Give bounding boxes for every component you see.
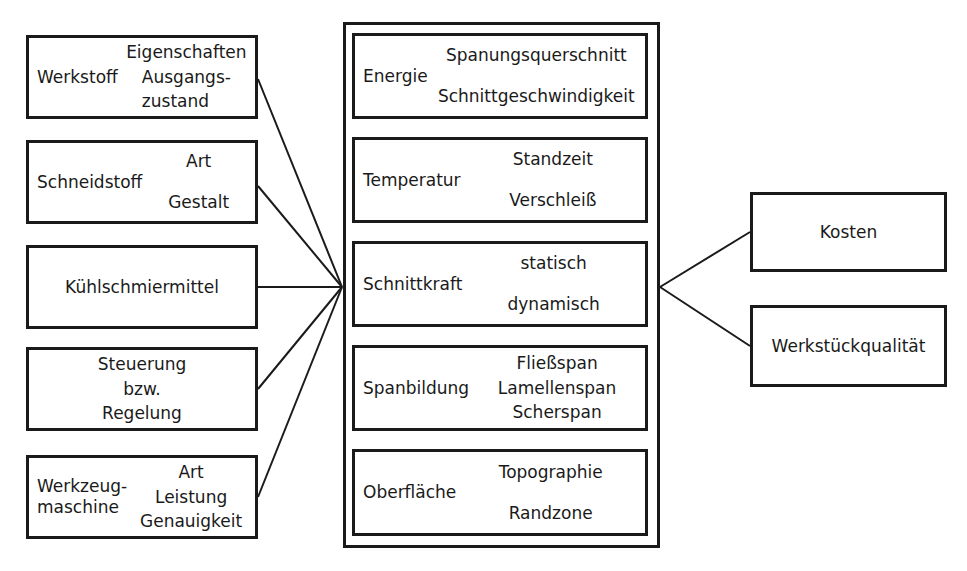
input-box-werkzeugmaschine[interactable]: Werkzeug- maschine Art Leistung Genauigk… bbox=[26, 455, 258, 539]
process-label-oberflaeche: Oberfläche bbox=[363, 482, 456, 503]
process-box-energie[interactable]: Energie Spanungsquerschnitt Schnittgesch… bbox=[352, 33, 648, 119]
input-sub-art2: Art bbox=[178, 460, 203, 485]
process-sublist-energie: Spanungsquerschnitt Schnittgeschwindigke… bbox=[428, 43, 645, 108]
process-sublist-spanbildung: Fließspan Lamellenspan Scherspan bbox=[469, 351, 645, 425]
input-box-schneidstoff[interactable]: Schneidstoff Art Gestalt bbox=[26, 140, 258, 224]
process-box-schnittkraft[interactable]: Schnittkraft statisch dynamisch bbox=[352, 241, 648, 327]
process-sublist-temperatur: Standzeit Verschleiß bbox=[461, 147, 645, 212]
process-sub-scherspan: Scherspan bbox=[512, 400, 601, 425]
process-sub-standzeit: Standzeit bbox=[513, 147, 593, 172]
output-label-kosten: Kosten bbox=[820, 222, 877, 243]
input-sublist-werkzeugmaschine: Art Leistung Genauigkeit bbox=[127, 460, 255, 534]
process-sublist-oberflaeche: Topographie Randzone bbox=[456, 460, 645, 525]
process-box-temperatur[interactable]: Temperatur Standzeit Verschleiß bbox=[352, 137, 648, 223]
process-label-energie: Energie bbox=[363, 66, 428, 87]
input-sublist-steuerung: Steuerung bzw. Regelung bbox=[98, 352, 186, 426]
input-label-werkzeugmaschine: Werkzeug- maschine bbox=[37, 476, 127, 517]
process-sub-lamellenspan: Lamellenspan bbox=[498, 376, 616, 401]
input-box-kuehlschmiermittel[interactable]: Kühlschmiermittel bbox=[26, 245, 258, 329]
input-sub-regelung: Regelung bbox=[102, 401, 182, 426]
connector-steuerung bbox=[258, 287, 342, 389]
input-label-werkstoff: Werkstoff bbox=[37, 67, 118, 88]
process-box-oberflaeche[interactable]: Oberfläche Topographie Randzone bbox=[352, 449, 648, 536]
connector-kosten bbox=[660, 232, 750, 287]
input-sublist-werkstoff: Eigenschaften Ausgangs- zustand bbox=[118, 40, 255, 114]
input-sub-genauigkeit: Genauigkeit bbox=[140, 509, 242, 534]
output-box-werkstueckqualitaet[interactable]: Werkstückqualität bbox=[750, 305, 947, 387]
process-sub-topographie: Topographie bbox=[499, 460, 603, 485]
process-label-temperatur: Temperatur bbox=[363, 170, 461, 191]
process-sub-randzone: Randzone bbox=[509, 501, 593, 526]
connector-schneidstoff bbox=[258, 186, 342, 287]
input-sub-bzw: bzw. bbox=[123, 377, 160, 402]
output-label-werkstueckqualitaet: Werkstückqualität bbox=[772, 336, 926, 357]
process-sub-schnittgeschwindigkeit: Schnittgeschwindigkeit bbox=[438, 84, 635, 109]
input-sub-ausgangszustand: Ausgangs- zustand bbox=[142, 65, 231, 114]
connector-werkstoff bbox=[258, 79, 342, 287]
input-sub-gestalt: Gestalt bbox=[168, 190, 229, 215]
process-sub-verschleiss: Verschleiß bbox=[509, 188, 596, 213]
process-box-spanbildung[interactable]: Spanbildung Fließspan Lamellenspan Scher… bbox=[352, 345, 648, 431]
process-sub-dynamisch: dynamisch bbox=[508, 292, 600, 317]
diagram-canvas: Werkstoff Eigenschaften Ausgangs- zustan… bbox=[0, 0, 967, 571]
process-sub-statisch: statisch bbox=[521, 251, 587, 276]
process-label-spanbildung: Spanbildung bbox=[363, 378, 469, 399]
input-box-steuerung[interactable]: Steuerung bzw. Regelung bbox=[26, 347, 258, 431]
process-sub-fliessspan: Fließspan bbox=[516, 351, 597, 376]
output-box-kosten[interactable]: Kosten bbox=[750, 192, 947, 272]
process-sublist-schnittkraft: statisch dynamisch bbox=[462, 251, 645, 316]
input-sub-art: Art bbox=[186, 149, 211, 174]
input-sublist-schneidstoff: Art Gestalt bbox=[142, 149, 255, 214]
input-label-kuehlschmiermittel: Kühlschmiermittel bbox=[65, 277, 219, 298]
connector-werkzeugmaschine bbox=[258, 287, 342, 497]
process-label-schnittkraft: Schnittkraft bbox=[363, 274, 462, 295]
input-label-schneidstoff: Schneidstoff bbox=[37, 172, 142, 193]
input-sub-eigenschaften: Eigenschaften bbox=[126, 40, 246, 65]
process-sub-spanungsquerschnitt: Spanungsquerschnitt bbox=[446, 43, 627, 68]
input-sub-steuerung: Steuerung bbox=[98, 352, 186, 377]
connector-werkstueckqualitaet bbox=[660, 287, 750, 346]
input-box-werkstoff[interactable]: Werkstoff Eigenschaften Ausgangs- zustan… bbox=[26, 35, 258, 119]
input-sub-leistung: Leistung bbox=[155, 485, 227, 510]
